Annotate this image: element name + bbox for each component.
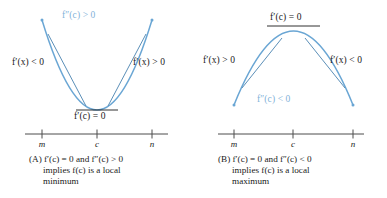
label-first-derivative-zero: f′(c) = 0 <box>74 112 106 122</box>
axis-label-m: m <box>39 139 46 149</box>
panel-b-caption-line2: implies f(c) is a local <box>218 165 312 176</box>
label-first-derivative-zero: f′(c) = 0 <box>270 13 302 23</box>
tangent-left-positive-slope <box>242 38 282 88</box>
panel-b-caption-line1: (B) f′(c) = 0 and f″(c) < 0 <box>218 154 312 165</box>
label-left-slope-positive: f′(x) > 0 <box>203 56 235 66</box>
panel-a-local-minimum: f″(c) > 0 f′(x) < 0 f′(x) > 0 f′(c) = 0 … <box>0 0 193 198</box>
panel-a-caption-line3: minimum <box>29 176 123 187</box>
panel-a-caption: (A) f′(c) = 0 and f″(c) > 0 implies f(c)… <box>29 154 123 188</box>
label-right-slope-positive: f′(x) > 0 <box>133 58 165 68</box>
label-right-slope-negative: f′(x) < 0 <box>330 56 362 66</box>
label-second-derivative-negative: f″(c) < 0 <box>257 95 290 105</box>
axis-label-m: m <box>231 139 238 149</box>
curve-endpoint-left-dot <box>41 19 44 22</box>
panel-b-caption-line3: maximum <box>218 176 312 187</box>
tangent-left-negative-slope <box>48 34 86 106</box>
curve-endpoint-left-dot <box>233 104 236 107</box>
tangent-right-positive-slope <box>108 34 146 106</box>
curve-endpoint-right-dot <box>151 19 154 22</box>
axis-label-n: n <box>351 139 356 149</box>
curve-concave-parabola <box>234 31 353 105</box>
panel-a-caption-line2: implies f(c) is a local <box>29 165 123 176</box>
axis-label-c: c <box>291 139 295 149</box>
axis-label-n: n <box>150 139 155 149</box>
panel-b-caption: (B) f′(c) = 0 and f″(c) < 0 implies f(c)… <box>218 154 312 188</box>
axis-label-c: c <box>95 139 99 149</box>
label-left-slope-negative: f′(x) < 0 <box>12 58 44 68</box>
second-derivative-test-figure: f″(c) > 0 f′(x) < 0 f′(x) > 0 f′(c) = 0 … <box>0 0 387 198</box>
curve-endpoint-right-dot <box>352 104 355 107</box>
panel-b-local-maximum: f′(c) = 0 f′(x) > 0 f′(x) < 0 f″(c) < 0 … <box>194 0 387 198</box>
label-second-derivative-positive: f″(c) > 0 <box>62 11 95 21</box>
panel-a-caption-line1: (A) f′(c) = 0 and f″(c) > 0 <box>29 154 123 165</box>
